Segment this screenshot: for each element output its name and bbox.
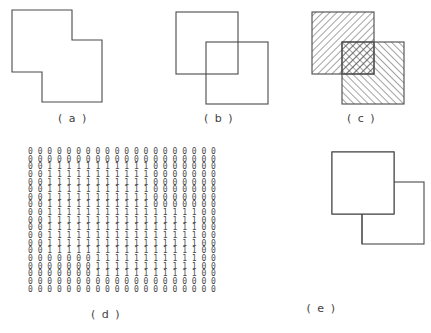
panel-c: ( c )	[292, 0, 431, 140]
figure-container: ( a ) ( b ) ( c ) 0 0 0 0 0 0 0	[0, 0, 431, 333]
binary-matrix: 0 0 0 0 0 0 0 0 0 0 0 0 0 0 0 0 0 0 0 00…	[28, 148, 216, 293]
panel-a: ( a )	[0, 0, 146, 140]
panel-c-shape	[292, 0, 431, 112]
panel-d-caption: ( d )	[0, 308, 212, 321]
square-lower-right-outline	[206, 42, 268, 104]
panel-c-caption: ( c )	[292, 112, 431, 125]
panel-b-caption: ( b )	[146, 112, 292, 125]
panel-b-shape	[146, 0, 292, 112]
panel-e-caption: ( e )	[212, 302, 431, 315]
panel-a-caption: ( a )	[0, 112, 146, 125]
merged-region-outline	[12, 10, 102, 102]
panel-b: ( b )	[146, 0, 292, 140]
matrix-row: 0 0 0 0 0 0 0 0 0 0 0 0 0 0 0 0 0 0 0 0	[28, 286, 216, 294]
panel-e: ( e )	[212, 140, 431, 333]
square-upper-left-outline	[176, 12, 238, 74]
panel-d: 0 0 0 0 0 0 0 0 0 0 0 0 0 0 0 0 0 0 0 00…	[0, 140, 212, 333]
square-upper-left-overlay	[332, 152, 394, 214]
panel-a-shape	[0, 0, 146, 112]
panel-e-shape	[212, 140, 431, 300]
overlap-crosshatched	[342, 42, 374, 74]
